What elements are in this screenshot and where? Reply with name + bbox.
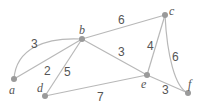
edge-weight-c-f: 6 [172,50,179,64]
edge-b-e [82,39,147,75]
node-label-e: e [141,77,147,91]
edge-weight-d-e: 7 [97,90,104,102]
edge-weight-b-e: 3 [118,45,125,59]
node-label-d: d [37,81,44,95]
edge-weight-a-b: 3 [31,37,38,51]
node-label-c: c [169,4,175,18]
weighted-graph: 325637463abcdef [0,0,202,102]
node-a [11,76,17,82]
edge-weight-b-c: 6 [118,13,125,27]
edge-weight-c-e: 4 [147,39,154,53]
node-label-f: f [188,77,193,91]
edge-weight-a-b: 2 [44,64,51,78]
node-c [162,12,168,18]
node-label-b: b [79,23,85,37]
edge-weight-e-f: 3 [162,83,169,97]
node-label-a: a [9,83,15,97]
edge-d-e [45,75,147,96]
edge-weight-b-d: 5 [64,65,71,79]
